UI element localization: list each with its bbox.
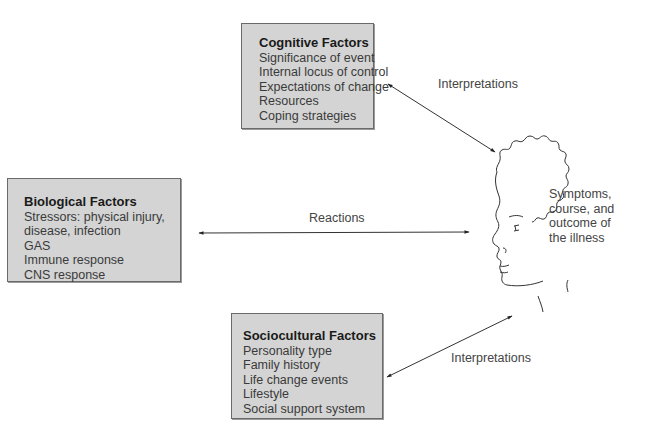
- arrow-cognitive-head: [388, 84, 495, 152]
- reactions-label: Reactions: [309, 211, 365, 225]
- biological-item: GAS: [24, 239, 180, 254]
- sociocultural-factors-box: Sociocultural Factors Personality type F…: [231, 313, 383, 419]
- sociocultural-item: Personality type: [243, 344, 382, 359]
- biological-item: CNS response: [24, 268, 180, 283]
- sociocultural-item: Family history: [243, 358, 382, 373]
- biological-factors-box: Biological Factors Stressors: physical i…: [7, 178, 181, 282]
- illness-outcome-line: course, and: [549, 202, 614, 217]
- biological-item: Stressors: physical injury,: [24, 210, 180, 225]
- illness-outcome-line: outcome of: [549, 216, 614, 231]
- cognitive-factors-title: Cognitive Factors: [259, 36, 373, 51]
- illness-outcome-line: the illness: [549, 231, 614, 246]
- cognitive-item: Coping strategies: [259, 109, 373, 124]
- cognitive-item: Resources: [259, 94, 373, 109]
- cognitive-item: Significance of event: [259, 51, 373, 66]
- illness-outcome-text: Symptoms, course, and outcome of the ill…: [549, 187, 614, 245]
- cognitive-item: Internal locus of control: [259, 65, 373, 80]
- sociocultural-item: Social support system: [243, 402, 382, 417]
- sociocultural-factors-title: Sociocultural Factors: [243, 329, 382, 344]
- biological-factors-title: Biological Factors: [24, 195, 180, 210]
- interpretations-label-bottom: Interpretations: [451, 351, 531, 365]
- arrow-sociocultural-head: [387, 316, 512, 377]
- interpretations-label-top: Interpretations: [438, 77, 518, 91]
- biological-item: disease, infection: [24, 224, 180, 239]
- sociocultural-item: Lifestyle: [243, 387, 382, 402]
- sociocultural-item: Life change events: [243, 373, 382, 388]
- arrow-biological-head: [199, 232, 469, 233]
- cognitive-factors-box: Cognitive Factors Significance of event …: [241, 23, 374, 129]
- biological-item: Immune response: [24, 253, 180, 268]
- cognitive-item: Expectations of change: [259, 80, 373, 95]
- illness-outcome-line: Symptoms,: [549, 187, 614, 202]
